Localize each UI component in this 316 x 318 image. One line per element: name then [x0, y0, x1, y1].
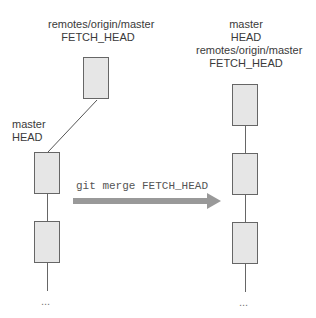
ellipsis-right: ...: [239, 296, 248, 308]
branch-edge: [48, 100, 97, 152]
label-head: HEAD: [12, 131, 52, 144]
commit-left-1: [34, 152, 60, 194]
edge-right-1: [245, 126, 246, 153]
commit-right-1: [232, 84, 258, 126]
commit-left-2: [34, 221, 60, 263]
commit-right-2: [232, 153, 258, 195]
ellipsis-left: ...: [41, 295, 50, 307]
label-fetch-head: FETCH_HEAD: [48, 31, 148, 44]
edge-right-2: [245, 195, 246, 222]
edge-left-1: [47, 194, 48, 221]
commit-right-3: [232, 222, 258, 264]
label-master: master: [12, 118, 52, 131]
command-label: git merge FETCH_HEAD: [76, 180, 208, 192]
label-master: master: [196, 18, 296, 31]
local-branch-labels: master HEAD: [12, 118, 52, 144]
label-remotes-origin-master: remotes/origin/master: [196, 44, 296, 57]
merge-arrow-icon: [73, 193, 221, 209]
edge-right-3: [245, 264, 246, 292]
label-head: HEAD: [196, 31, 296, 44]
edge-left-2: [47, 263, 48, 291]
right-labels: master HEAD remotes/origin/master FETCH_…: [196, 18, 296, 70]
label-fetch-head: FETCH_HEAD: [196, 57, 296, 70]
label-remotes-origin-master: remotes/origin/master: [48, 18, 148, 31]
remote-branch-labels: remotes/origin/master FETCH_HEAD: [48, 18, 148, 44]
commit-remote: [83, 57, 109, 99]
